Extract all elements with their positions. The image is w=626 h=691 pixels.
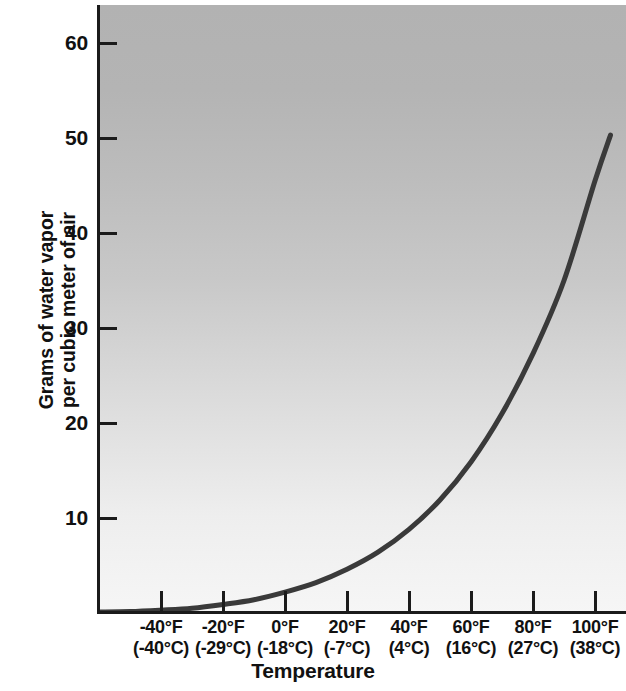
y-tick-label: 20 xyxy=(26,411,88,435)
x-axis-title: Temperature xyxy=(0,659,626,683)
x-tick-label-fahrenheit: 100°F xyxy=(547,617,626,638)
x-tick-mark xyxy=(284,591,287,612)
y-tick-label: 40 xyxy=(26,221,88,245)
y-tick-mark xyxy=(100,232,117,235)
x-tick-mark xyxy=(594,591,597,612)
x-tick-label-celsius: (38°C) xyxy=(547,638,626,659)
x-tick-mark xyxy=(408,591,411,612)
y-tick-label: 60 xyxy=(26,31,88,55)
x-tick-mark xyxy=(222,591,225,612)
x-tick-mark xyxy=(470,591,473,612)
x-axis-line xyxy=(97,611,626,614)
plot-area xyxy=(99,5,626,613)
x-tick-mark xyxy=(532,591,535,612)
y-tick-label: 10 xyxy=(26,506,88,530)
y-axis-tick-labels: 102030405060 xyxy=(0,0,88,691)
saturation-curve-line xyxy=(99,135,611,612)
data-curve-svg xyxy=(99,5,626,613)
y-tick-mark xyxy=(100,327,117,330)
water-vapor-capacity-chart: Grams of water vapor per cubic meter of … xyxy=(0,0,626,691)
y-tick-mark xyxy=(100,42,117,45)
y-tick-mark xyxy=(100,137,117,140)
y-tick-label: 30 xyxy=(26,316,88,340)
y-axis-line xyxy=(97,5,100,614)
y-tick-mark xyxy=(100,422,117,425)
x-tick-mark xyxy=(160,591,163,612)
y-tick-label: 50 xyxy=(26,126,88,150)
x-tick-mark xyxy=(346,591,349,612)
x-tick-label: 100°F(38°C) xyxy=(547,617,626,658)
y-tick-mark xyxy=(100,517,117,520)
